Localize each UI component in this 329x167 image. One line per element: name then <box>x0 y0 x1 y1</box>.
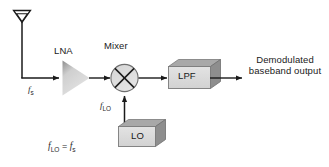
rf-input-signal-label: fs <box>28 84 34 96</box>
antenna-icon <box>14 11 31 79</box>
frequency-equation: fLO = fs <box>48 141 76 154</box>
equation-operator: = <box>59 141 69 151</box>
output-label-line2: baseband output <box>243 65 327 76</box>
lo-signal-label: fLO <box>100 100 111 112</box>
mixer-label: Mixer <box>104 40 128 51</box>
lna-block <box>63 61 90 96</box>
equation-rhs-subscript: s <box>72 146 75 153</box>
lo-input-subscript: LO <box>103 105 112 112</box>
diagram-canvas: LNA Mixer LPF LO fs fLO Demodulated base… <box>0 0 329 167</box>
output-label: Demodulated baseband output <box>243 54 327 76</box>
mixer-block <box>111 64 138 91</box>
lna-label: LNA <box>54 45 73 56</box>
output-label-line1: Demodulated <box>243 54 327 65</box>
lo-label: LO <box>131 130 144 141</box>
rf-input-subscript: s <box>31 89 34 96</box>
lpf-label: LPF <box>178 70 196 81</box>
